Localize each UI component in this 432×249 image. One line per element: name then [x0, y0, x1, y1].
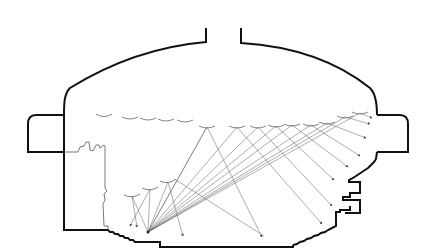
right-stepped-profile — [293, 152, 377, 245]
ceiling-panels — [96, 112, 368, 128]
roof-right — [241, 28, 377, 115]
left-side-box — [28, 115, 64, 152]
right-side-box — [377, 115, 408, 152]
left-wall-and-floor — [64, 115, 293, 247]
acoustic-section-diagram — [0, 0, 432, 249]
sound-source — [147, 231, 150, 234]
building-shell — [28, 28, 408, 247]
roof-left — [64, 28, 206, 115]
stage-scenery-outline — [64, 142, 108, 230]
